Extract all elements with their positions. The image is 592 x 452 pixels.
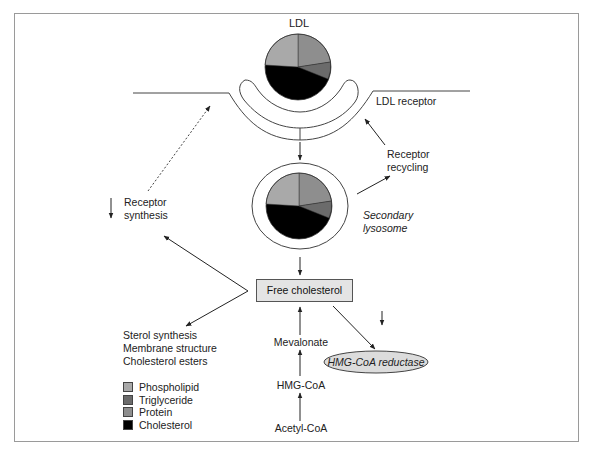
legend-item-triglyceride: Triglyceride [123, 394, 199, 407]
triglyceride-swatch [123, 395, 133, 405]
ldl-receptor-label: LDL receptor [376, 95, 436, 108]
receptor-recycling-label-2: recycling [387, 161, 428, 174]
secondary-lysosome-label-1: Secondary [363, 209, 413, 222]
receptor-synthesis-label-1: Receptor [124, 196, 167, 209]
mevalonate-label: Mevalonate [270, 336, 332, 349]
legend-item-cholesterol: Cholesterol [123, 419, 199, 432]
ldl-particle-pie [265, 34, 331, 100]
legend-label: Cholesterol [139, 419, 192, 431]
hmg-coa-reductase-label: HMG-CoA reductase [326, 356, 426, 369]
acetyl-coa-label: Acetyl-CoA [266, 422, 336, 435]
cholesterol-swatch [123, 420, 133, 430]
ldl-label: LDL [287, 17, 311, 30]
cholesterol-esters-label: Cholesterol esters [123, 355, 208, 368]
legend-label: Protein [139, 406, 172, 418]
legend-label: Triglyceride [139, 394, 193, 406]
sterol-synthesis-label: Sterol synthesis [123, 329, 197, 342]
receptor-synthesis-label-2: synthesis [124, 209, 168, 222]
legend-item-phospholipid: Phospholipid [123, 381, 199, 394]
protein-swatch [123, 407, 133, 417]
secondary-lysosome [252, 163, 348, 249]
secondary-lysosome-label-2: lysosome [363, 222, 407, 235]
phospholipid-swatch [123, 382, 133, 392]
legend: Phospholipid Triglyceride Protein Choles… [123, 381, 199, 431]
hmg-coa-label: HMG-CoA [270, 379, 332, 392]
ldl-receptor-pathway-diagram: LDL LDL receptor Receptor recycling Seco… [0, 0, 592, 452]
legend-label: Phospholipid [139, 381, 199, 393]
free-cholesterol-box: Free cholesterol [256, 279, 353, 302]
receptor-recycling-label-1: Receptor [387, 148, 430, 161]
membrane-structure-label: Membrane structure [123, 342, 217, 355]
legend-item-protein: Protein [123, 406, 199, 419]
